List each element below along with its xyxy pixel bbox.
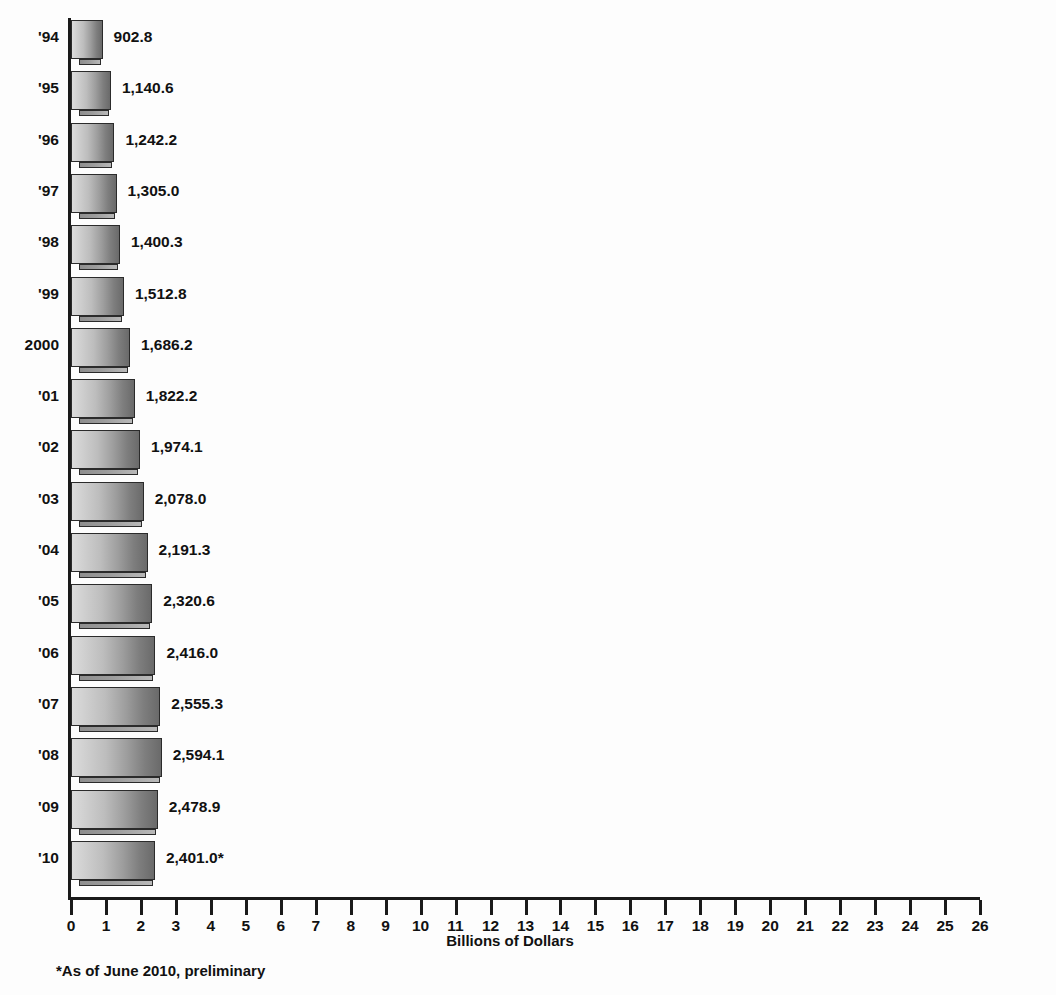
x-axis-tick bbox=[909, 900, 912, 915]
bar-value-label: 2,594.1 bbox=[173, 746, 225, 764]
chart-page: 902.8'941,140.6'951,242.2'961,305.0'971,… bbox=[0, 0, 1056, 995]
bar[interactable] bbox=[71, 20, 103, 59]
bar[interactable] bbox=[71, 482, 144, 521]
bar[interactable] bbox=[71, 738, 162, 777]
year-axis-label: '07 bbox=[0, 695, 59, 713]
bar[interactable] bbox=[71, 71, 111, 110]
year-axis-label: '97 bbox=[0, 182, 59, 200]
bar-row: 2,555.3'07 bbox=[71, 685, 980, 736]
bar-row: 1,686.22000 bbox=[71, 326, 980, 377]
year-axis-label: '10 bbox=[0, 849, 59, 867]
bar-row: 2,594.1'08 bbox=[71, 736, 980, 787]
year-axis-label: '99 bbox=[0, 285, 59, 303]
bar-shadow bbox=[79, 572, 146, 578]
year-axis-label: '04 bbox=[0, 541, 59, 559]
x-axis-tick bbox=[140, 900, 143, 915]
x-axis-tick bbox=[420, 900, 423, 915]
x-axis-tick bbox=[664, 900, 667, 915]
bar-value-label: 2,191.3 bbox=[159, 541, 211, 559]
x-axis-tick bbox=[455, 900, 458, 915]
bar-shadow bbox=[79, 777, 160, 783]
x-axis-tick bbox=[245, 900, 248, 915]
bar-value-label: 1,686.2 bbox=[141, 336, 193, 354]
x-axis-tick bbox=[210, 900, 213, 915]
bar-row: 1,512.8'99 bbox=[71, 275, 980, 326]
year-axis-label: '06 bbox=[0, 644, 59, 662]
x-axis-tick bbox=[979, 900, 982, 915]
cropped-title-remnant bbox=[0, 0, 1056, 9]
bar-value-label: 1,512.8 bbox=[135, 285, 187, 303]
bar-shadow bbox=[79, 521, 142, 527]
bar-value-label: 2,320.6 bbox=[163, 592, 215, 610]
x-axis-tick bbox=[559, 900, 562, 915]
year-axis-label: '09 bbox=[0, 798, 59, 816]
bar-shadow bbox=[79, 469, 138, 475]
x-axis-tick bbox=[839, 900, 842, 915]
x-axis-tick bbox=[699, 900, 702, 915]
x-axis-tick bbox=[629, 900, 632, 915]
bar-value-label: 2,416.0 bbox=[166, 644, 218, 662]
x-axis-tick bbox=[490, 900, 493, 915]
bar[interactable] bbox=[71, 277, 124, 316]
year-axis-label: '05 bbox=[0, 592, 59, 610]
x-axis-tick bbox=[280, 900, 283, 915]
x-axis-tick bbox=[525, 900, 528, 915]
x-axis-tick bbox=[874, 900, 877, 915]
bar[interactable] bbox=[71, 841, 155, 880]
bar[interactable] bbox=[71, 225, 120, 264]
bar-shadow bbox=[79, 367, 128, 373]
year-axis-label: '08 bbox=[0, 746, 59, 764]
year-axis-label: '96 bbox=[0, 131, 59, 149]
x-axis-tick bbox=[594, 900, 597, 915]
plot-area: 902.8'941,140.6'951,242.2'961,305.0'971,… bbox=[71, 18, 980, 897]
year-axis-label: '94 bbox=[0, 28, 59, 46]
x-axis-tick bbox=[105, 900, 108, 915]
bar-value-label: 1,974.1 bbox=[151, 438, 203, 456]
footnote: *As of June 2010, preliminary bbox=[56, 962, 265, 979]
bar-shadow bbox=[79, 162, 112, 168]
bar[interactable] bbox=[71, 533, 148, 572]
x-axis-tick bbox=[350, 900, 353, 915]
bar[interactable] bbox=[71, 379, 135, 418]
bar-row: 1,822.2'01 bbox=[71, 377, 980, 428]
x-axis-tick bbox=[175, 900, 178, 915]
x-axis-title: Billions of Dollars bbox=[0, 932, 1020, 949]
bar-value-label: 1,140.6 bbox=[122, 79, 174, 97]
bar-row: 2,191.3'04 bbox=[71, 531, 980, 582]
bar[interactable] bbox=[71, 174, 117, 213]
year-axis-label: 2000 bbox=[0, 336, 59, 354]
year-axis-label: '98 bbox=[0, 233, 59, 251]
bar-value-label: 1,242.2 bbox=[125, 131, 177, 149]
bar-shadow bbox=[79, 623, 150, 629]
x-axis-tick bbox=[385, 900, 388, 915]
bar-value-label: 2,078.0 bbox=[155, 490, 207, 508]
bar-value-label: 2,478.9 bbox=[169, 798, 221, 816]
x-axis-tick bbox=[769, 900, 772, 915]
bar-shadow bbox=[79, 880, 153, 886]
year-axis-label: '95 bbox=[0, 79, 59, 97]
bar-shadow bbox=[79, 264, 118, 270]
bar-value-label: 1,400.3 bbox=[131, 233, 183, 251]
bar-value-label: 2,401.0* bbox=[166, 849, 224, 867]
bar-row: 1,974.1'02 bbox=[71, 428, 980, 479]
year-axis-label: '01 bbox=[0, 387, 59, 405]
bar[interactable] bbox=[71, 584, 152, 623]
bar-shadow bbox=[79, 316, 122, 322]
bar[interactable] bbox=[71, 687, 160, 726]
bar-row: 1,242.2'96 bbox=[71, 121, 980, 172]
bar-row: 2,401.0*'10 bbox=[71, 839, 980, 890]
bar[interactable] bbox=[71, 636, 155, 675]
bar-value-label: 2,555.3 bbox=[171, 695, 223, 713]
bar[interactable] bbox=[71, 430, 140, 469]
year-axis-label: '02 bbox=[0, 438, 59, 456]
bar[interactable] bbox=[71, 123, 114, 162]
bar-value-label: 902.8 bbox=[114, 28, 153, 46]
bar-row: 2,416.0'06 bbox=[71, 634, 980, 685]
bar[interactable] bbox=[71, 790, 158, 829]
bar[interactable] bbox=[71, 328, 130, 367]
bar-shadow bbox=[79, 213, 115, 219]
bar-row: 1,400.3'98 bbox=[71, 223, 980, 274]
x-axis-tick bbox=[804, 900, 807, 915]
bar-value-label: 1,822.2 bbox=[146, 387, 198, 405]
bar-row: 2,478.9'09 bbox=[71, 788, 980, 839]
